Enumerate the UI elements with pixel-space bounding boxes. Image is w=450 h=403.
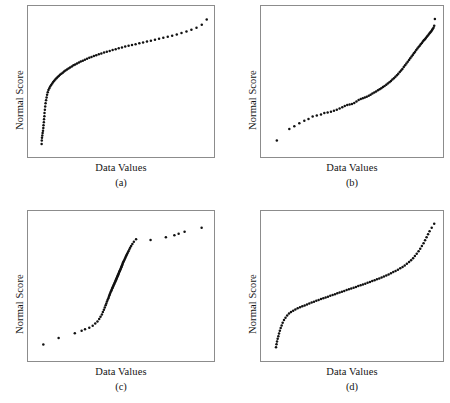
plot-area-a bbox=[27, 5, 215, 158]
y-axis-label-b: Normal Score bbox=[247, 70, 258, 130]
panel-caption-c: (c) bbox=[27, 381, 215, 392]
plot-area-b bbox=[260, 5, 444, 158]
scatter-svg-a bbox=[28, 6, 214, 157]
plot-area-d bbox=[260, 210, 444, 362]
y-axis-label-c: Normal Score bbox=[14, 274, 25, 334]
normal-probability-plots-figure: Normal Score Data Values (a) Normal Scor… bbox=[0, 0, 450, 403]
x-axis-label-a: Data Values bbox=[27, 162, 215, 173]
y-axis-label-d: Normal Score bbox=[247, 274, 258, 334]
y-axis-label-a: Normal Score bbox=[14, 70, 25, 130]
x-axis-label-d: Data Values bbox=[260, 366, 444, 377]
scatter-svg-d bbox=[261, 211, 443, 361]
panel-caption-b: (b) bbox=[260, 177, 444, 188]
x-axis-label-b: Data Values bbox=[260, 162, 444, 173]
panel-caption-a: (a) bbox=[27, 177, 215, 188]
x-axis-label-c: Data Values bbox=[27, 366, 215, 377]
scatter-svg-b bbox=[261, 6, 443, 157]
plot-area-c bbox=[27, 210, 215, 362]
scatter-svg-c bbox=[28, 211, 214, 361]
panel-caption-d: (d) bbox=[260, 381, 444, 392]
